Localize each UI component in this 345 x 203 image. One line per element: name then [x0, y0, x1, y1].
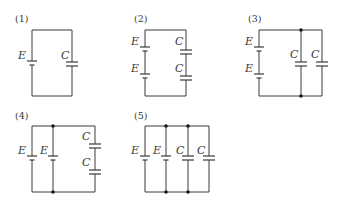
circuit-3-bottom-wire	[259, 66, 322, 96]
battery-label: E	[130, 62, 139, 75]
circuit-1: (1) E C	[15, 13, 78, 96]
junction-dot	[186, 124, 190, 128]
battery-label: E	[244, 62, 253, 75]
battery-label: E	[152, 144, 161, 157]
junction-dot	[299, 94, 303, 98]
circuit-4: (4) E E C C	[15, 110, 101, 194]
battery-icon	[140, 156, 150, 160]
junction-dot	[299, 28, 303, 32]
capacitor-icon	[89, 170, 101, 174]
junction-dot	[51, 124, 55, 128]
battery-icon	[161, 156, 171, 160]
battery-label: E	[244, 35, 253, 48]
capacitor-icon	[180, 50, 192, 54]
capacitor-label: C	[82, 156, 91, 169]
circuit-3: (3) E E C C	[244, 13, 328, 98]
capacitor-label: C	[290, 48, 299, 61]
circuit-5-bottom-wire	[145, 160, 209, 192]
capacitor-icon	[89, 144, 101, 148]
circuit-figure: (1) E C (2)	[0, 0, 345, 203]
battery-label: E	[17, 144, 26, 157]
battery-icon	[140, 74, 150, 78]
battery-label: E	[17, 49, 26, 62]
circuit-1-number: (1)	[15, 13, 28, 24]
capacitor-icon	[180, 76, 192, 80]
battery-label: E	[39, 144, 48, 157]
circuit-5: (5) E E C C	[130, 110, 215, 194]
battery-icon	[140, 47, 150, 51]
capacitor-icon	[295, 62, 307, 66]
circuit-2-bottom-wire	[145, 78, 186, 96]
battery-icon	[27, 156, 37, 160]
battery-label: E	[130, 144, 139, 157]
capacitor-icon	[66, 62, 78, 66]
capacitor-label: C	[82, 130, 91, 143]
junction-dot	[164, 190, 168, 194]
battery-icon	[254, 74, 264, 78]
capacitor-label: C	[311, 48, 320, 61]
capacitor-label: C	[176, 144, 185, 157]
circuit-5-number: (5)	[134, 110, 147, 121]
battery-icon	[254, 47, 264, 51]
capacitor-label: C	[61, 49, 70, 62]
circuit-2-number: (2)	[134, 13, 147, 24]
circuit-3-number: (3)	[248, 13, 261, 24]
battery-icon	[27, 61, 37, 65]
circuit-1-bottom-wire	[32, 65, 72, 96]
battery-label: E	[130, 35, 139, 48]
junction-dot	[51, 190, 55, 194]
capacitor-label: C	[197, 144, 206, 157]
circuit-2: (2) E E C C	[130, 13, 192, 96]
circuit-4-number: (4)	[15, 110, 28, 121]
junction-dot	[164, 124, 168, 128]
capacitor-label: C	[175, 62, 184, 75]
capacitor-icon	[316, 62, 328, 66]
battery-icon	[48, 156, 58, 160]
junction-dot	[186, 190, 190, 194]
capacitor-label: C	[175, 35, 184, 48]
